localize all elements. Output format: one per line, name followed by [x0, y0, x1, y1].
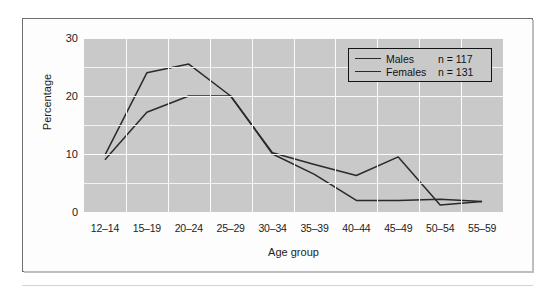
- x-axis-ticks: 12–1415–1920–2425–2930–3435–3940–4445–49…: [84, 222, 503, 238]
- gridline-horizontal: [84, 38, 503, 39]
- legend-item: Malesn = 117: [355, 52, 485, 65]
- x-axis-tick-label: 25–29: [210, 222, 252, 238]
- x-axis-tick-label: 40–44: [335, 222, 377, 238]
- chart-legend: Malesn = 117Femalesn = 131: [348, 48, 492, 82]
- x-axis-tick-label: 35–39: [294, 222, 336, 238]
- legend-line-swatch: [355, 58, 381, 59]
- gridline-horizontal: [84, 183, 503, 184]
- figure-bottom-rule: [22, 285, 533, 286]
- figure: Percentage 0102030 12–1415–1920–2425–293…: [0, 0, 555, 292]
- gridline-horizontal: [84, 96, 503, 97]
- legend-series-name: Females: [386, 66, 438, 78]
- x-axis-label: Age group: [84, 246, 503, 258]
- x-axis-tick-label: 12–14: [84, 222, 126, 238]
- x-axis-tick-label: 55–59: [461, 222, 503, 238]
- x-axis-tick-label: 50–54: [419, 222, 461, 238]
- x-axis-tick-label: 20–24: [168, 222, 210, 238]
- y-axis-tick-label: 0: [52, 207, 78, 218]
- legend-item: Femalesn = 131: [355, 65, 485, 78]
- x-axis-tick-label: 45–49: [377, 222, 419, 238]
- legend-series-count: n = 131: [438, 66, 473, 78]
- x-axis-tick-label: 30–34: [252, 222, 294, 238]
- y-axis-ticks: 0102030: [50, 0, 78, 292]
- legend-series-name: Males: [386, 53, 438, 65]
- legend-series-count: n = 117: [438, 53, 473, 65]
- gridline-horizontal: [84, 154, 503, 155]
- y-axis-tick-label: 20: [52, 91, 78, 102]
- x-axis-tick-label: 15–19: [126, 222, 168, 238]
- gridline-horizontal: [84, 125, 503, 126]
- legend-line-swatch: [355, 71, 381, 72]
- y-axis-tick-label: 30: [52, 33, 78, 44]
- y-axis-tick-label: 10: [52, 149, 78, 160]
